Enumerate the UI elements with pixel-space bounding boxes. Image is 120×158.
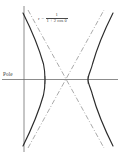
polar-hyperbola-figure: Pole r = 1 1 + 2 cos θ [0,0,120,158]
equation-annotation: r = 1 1 + 2 cos θ [38,13,68,23]
equation-lhs: r [38,16,40,21]
pole-label: Pole [3,72,13,77]
equation-denominator: 1 + 2 cos θ [46,18,68,23]
figure-canvas [0,0,120,158]
equation-fraction: 1 1 + 2 cos θ [46,13,68,23]
equation-equals-sign: = [41,16,44,21]
